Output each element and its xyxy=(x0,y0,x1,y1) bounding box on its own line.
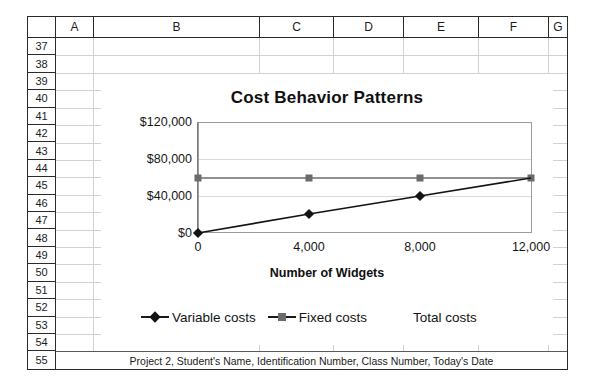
row-header-50[interactable]: 50 xyxy=(28,264,55,281)
diamond-marker-icon xyxy=(141,311,169,323)
gridline-80000 xyxy=(199,159,531,160)
column-header-c[interactable]: C xyxy=(260,17,334,37)
footer-merged-cell[interactable]: Project 2, Student's Name, Identificatio… xyxy=(56,351,567,369)
column-header-f[interactable]: F xyxy=(479,17,549,37)
column-header-row: A B C D E F G xyxy=(28,17,567,38)
chart-legend[interactable]: Variable costs Fixed costs Total costs xyxy=(141,306,523,328)
legend-entry-variable-costs[interactable]: Variable costs xyxy=(141,310,256,325)
column-header-corner[interactable] xyxy=(28,17,56,37)
spreadsheet-grid[interactable]: A B C D E F G 37383940414243444546474849… xyxy=(27,16,568,370)
grid-hline xyxy=(56,55,567,56)
row-header-48[interactable]: 48 xyxy=(28,229,55,246)
row-header-54[interactable]: 54 xyxy=(28,334,55,351)
column-header-a[interactable]: A xyxy=(56,17,94,37)
x-tick-label-12000: 12,000 xyxy=(512,240,550,254)
embedded-chart[interactable]: Cost Behavior Patterns $120,000 $80,000 … xyxy=(101,74,553,345)
legend-label-total-costs: Total costs xyxy=(413,310,477,325)
column-header-e[interactable]: E xyxy=(404,17,479,37)
square-marker-icon xyxy=(268,311,296,323)
y-tick-label-0: $0 xyxy=(178,226,192,240)
column-header-b[interactable]: B xyxy=(94,17,260,37)
row-header-51[interactable]: 51 xyxy=(28,282,55,299)
x-axis-title: Number of Widgets xyxy=(101,266,553,280)
row-header-40[interactable]: 40 xyxy=(28,90,55,107)
row-header-46[interactable]: 46 xyxy=(28,195,55,212)
row-header-42[interactable]: 42 xyxy=(28,125,55,142)
row-header-55[interactable]: 55 xyxy=(28,351,55,368)
grid-vline-a xyxy=(93,38,94,369)
row-header-52[interactable]: 52 xyxy=(28,299,55,316)
row-header-43[interactable]: 43 xyxy=(28,142,55,159)
column-header-d[interactable]: D xyxy=(334,17,404,37)
row-header-53[interactable]: 53 xyxy=(28,317,55,334)
x-tick-label-0: 0 xyxy=(195,240,202,254)
row-header-49[interactable]: 49 xyxy=(28,247,55,264)
legend-label-variable-costs: Variable costs xyxy=(172,310,256,325)
legend-label-fixed-costs: Fixed costs xyxy=(299,310,367,325)
row-header-column: 37383940414243444546474849505152535455 xyxy=(28,38,56,369)
y-tick-label-80000: $80,000 xyxy=(147,152,192,166)
row-header-37[interactable]: 37 xyxy=(28,38,55,55)
legend-entry-fixed-costs[interactable]: Fixed costs xyxy=(268,310,367,325)
row-header-47[interactable]: 47 xyxy=(28,212,55,229)
column-header-g[interactable]: G xyxy=(549,17,567,37)
row-header-38[interactable]: 38 xyxy=(28,55,55,72)
row-header-41[interactable]: 41 xyxy=(28,108,55,125)
row-header-39[interactable]: 39 xyxy=(28,73,55,90)
plot-area xyxy=(198,122,532,233)
y-tick-label-120000: $120,000 xyxy=(140,115,192,129)
chart-title: Cost Behavior Patterns xyxy=(101,88,553,108)
row-header-44[interactable]: 44 xyxy=(28,160,55,177)
x-tick-label-4000: 4,000 xyxy=(293,240,324,254)
row-header-45[interactable]: 45 xyxy=(28,177,55,194)
gridline-40000 xyxy=(199,196,531,197)
y-tick-label-40000: $40,000 xyxy=(147,189,192,203)
legend-entry-total-costs[interactable]: Total costs xyxy=(413,310,477,325)
x-tick-label-8000: 8,000 xyxy=(404,240,435,254)
